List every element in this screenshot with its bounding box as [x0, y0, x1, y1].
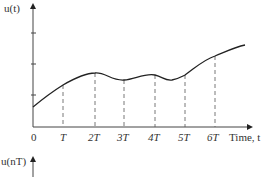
tick-label-4T: 4T	[148, 131, 161, 143]
tick-label-T: T	[60, 131, 67, 143]
x-axis-label: Time, t	[229, 131, 260, 143]
tick-label-3T: 3T	[116, 131, 130, 143]
sample-lines	[63, 56, 215, 127]
continuous-signal-diagram: u(t) 0 T 2T 3T 4T 5T 6T Time, t u(nT)	[0, 0, 267, 177]
y-axis-label: u(t)	[4, 2, 20, 15]
origin-label: 0	[31, 131, 37, 143]
tick-label-6T: 6T	[207, 131, 220, 143]
tick-label-2T: 2T	[88, 131, 101, 143]
signal-curve	[33, 45, 245, 107]
bottom-y-axis-label: u(nT)	[1, 155, 26, 168]
tick-label-5T: 5T	[178, 131, 191, 143]
